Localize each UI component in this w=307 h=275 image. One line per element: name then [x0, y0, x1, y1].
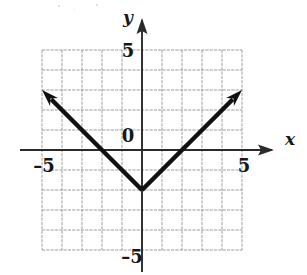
origin-label: 0 — [122, 125, 135, 146]
y-axis-title: y — [122, 7, 134, 27]
axis-labels: yx5–5–550 — [33, 7, 296, 267]
y-tick-label-5: 5 — [122, 40, 135, 61]
right-branch-segment — [142, 99, 233, 190]
x-tick-label-5: 5 — [238, 155, 251, 176]
y-tick-label-neg5: –5 — [121, 246, 143, 267]
x-tick-label-neg5: –5 — [33, 155, 55, 176]
x-axis-title: x — [284, 129, 296, 149]
axis-lines — [20, 18, 274, 272]
coordinate-plane-figure: yx5–5–550 — [0, 0, 307, 275]
